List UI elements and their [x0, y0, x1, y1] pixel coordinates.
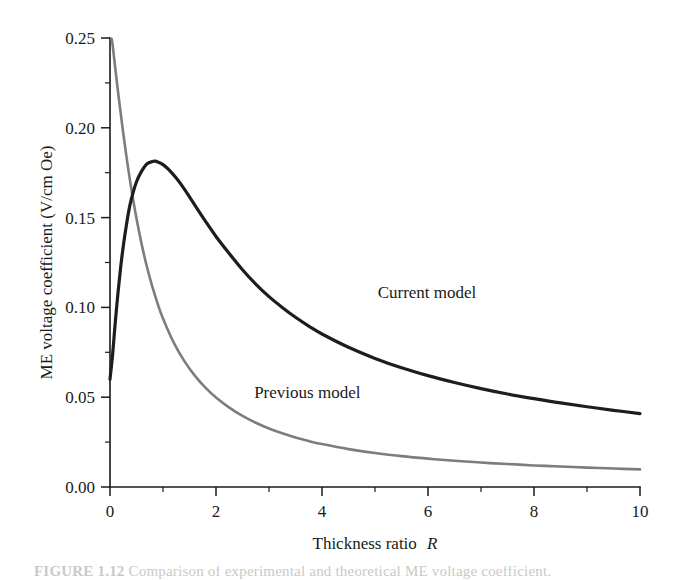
me-voltage-coefficient-chart: 0.000.050.100.150.200.25 0246810 Current… [0, 0, 675, 580]
y-tick-label: 0.25 [65, 29, 95, 48]
y-tick-label: 0.20 [65, 119, 95, 138]
y-tick-label: 0.10 [65, 298, 95, 317]
y-tick-label: 0.15 [65, 209, 95, 228]
y-tick-label: 0.00 [65, 478, 95, 497]
x-axis-tick-labels: 0246810 [106, 502, 649, 521]
x-axis-title-symbol: R [426, 534, 438, 553]
x-tick-label: 4 [318, 502, 327, 521]
x-axis-ticks [110, 487, 640, 496]
x-tick-label: 10 [632, 502, 649, 521]
y-axis-ticks [101, 38, 110, 487]
data-series-group [110, 39, 640, 470]
series-line-current-model [110, 161, 640, 413]
figure-caption-rest: Comparison of experimental and theoretic… [129, 566, 552, 579]
figure-container: 0.000.050.100.150.200.25 0246810 Current… [0, 0, 675, 580]
series-label-previous-model: Previous model [254, 383, 361, 402]
figure-caption-prefix: FIGURE 1.12 [34, 566, 125, 579]
x-axis-title: Thickness ratio R [313, 534, 439, 553]
figure-caption-strip: FIGURE 1.12 Comparison of experimental a… [0, 566, 675, 580]
y-tick-label: 0.05 [65, 388, 95, 407]
axis-lines [110, 38, 640, 487]
series-line-previous-model [112, 39, 640, 470]
series-label-current-model: Current model [378, 283, 477, 302]
x-tick-label: 0 [106, 502, 115, 521]
x-tick-label: 8 [530, 502, 539, 521]
x-tick-label: 6 [424, 502, 433, 521]
x-axis-title-text: Thickness ratio [313, 534, 417, 553]
x-tick-label: 2 [212, 502, 221, 521]
figure-caption: FIGURE 1.12 Comparison of experimental a… [34, 566, 551, 580]
y-axis-title: ME voltage coefficient (V/cm Oe) [37, 146, 56, 380]
y-axis-tick-labels: 0.000.050.100.150.200.25 [65, 29, 95, 497]
